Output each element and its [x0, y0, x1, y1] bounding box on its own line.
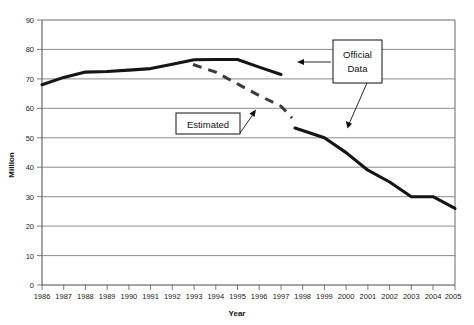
- x-tick-label: 1995: [229, 292, 246, 301]
- x-tick-label: 2003: [403, 292, 420, 301]
- y-tick-label: 90: [26, 16, 34, 25]
- x-axis-tick-labels: 1986 1987 1988 1989 1990 1991 1992 1993 …: [34, 292, 462, 301]
- y-tick-label: 40: [26, 163, 34, 172]
- arrowhead-icon: [297, 59, 304, 65]
- callout-label-line-2: Data: [347, 63, 368, 74]
- x-tick-label: 1993: [186, 292, 203, 301]
- y-tick-label: 0: [30, 281, 34, 290]
- callout-label-line-1: Official: [343, 49, 372, 60]
- plot-frame: [42, 20, 455, 285]
- y-tick-label: 10: [26, 252, 34, 261]
- x-tick-label: 1992: [164, 292, 181, 301]
- x-tickmarks: [42, 285, 455, 290]
- arrowhead-icon: [346, 121, 352, 129]
- x-tick-label: 1989: [99, 292, 116, 301]
- y-tick-label: 50: [26, 134, 34, 143]
- y-gridlines: [42, 49, 455, 255]
- callout-label: Estimated: [187, 119, 229, 130]
- y-axis-title: Million: [7, 152, 16, 177]
- x-tick-label: 1987: [55, 292, 72, 301]
- official-data-line-early: [42, 60, 281, 85]
- x-tick-label: 1998: [294, 292, 311, 301]
- callout-estimated[interactable]: Estimated: [176, 110, 256, 135]
- x-tick-label: 1996: [251, 292, 268, 301]
- x-axis-title: Year: [229, 309, 246, 318]
- line-chart: 90 80 70 60 50 40 30 20 10 0: [0, 0, 474, 325]
- x-tick-label: 1990: [121, 292, 138, 301]
- y-tick-label: 80: [26, 45, 34, 54]
- x-tick-label: 1994: [207, 292, 224, 301]
- x-tick-label: 2000: [338, 292, 355, 301]
- callout-box[interactable]: [333, 40, 382, 83]
- y-axis-tick-labels: 90 80 70 60 50 40 30 20 10 0: [26, 16, 34, 290]
- y-tick-label: 20: [26, 222, 34, 231]
- x-tick-label: 1988: [77, 292, 94, 301]
- y-tick-label: 70: [26, 75, 34, 84]
- callout-official-data[interactable]: Official Data: [297, 40, 382, 129]
- callout-leader-line: [240, 113, 254, 133]
- arrowhead-icon: [250, 110, 257, 118]
- y-tick-label: 60: [26, 104, 34, 113]
- callout-leader-line: [349, 83, 367, 124]
- x-tick-label: 2001: [360, 292, 377, 301]
- y-tick-label: 30: [26, 193, 34, 202]
- x-tick-label: 2005: [445, 292, 462, 301]
- x-tick-label: 1986: [34, 292, 51, 301]
- chart-screenshot: 90 80 70 60 50 40 30 20 10 0: [0, 0, 474, 325]
- x-tick-label: 2004: [425, 292, 442, 301]
- x-tick-label: 1991: [142, 292, 159, 301]
- x-tick-label: 1999: [316, 292, 333, 301]
- x-tick-label: 1997: [273, 292, 290, 301]
- y-tickmarks: [37, 20, 42, 285]
- x-tick-label: 2002: [381, 292, 398, 301]
